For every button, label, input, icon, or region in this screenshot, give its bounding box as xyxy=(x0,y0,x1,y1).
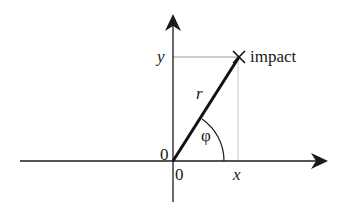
polar-diagram: y impact r φ 0 0 x xyxy=(0,0,346,202)
radius-vector xyxy=(173,57,239,161)
y-value-label: y xyxy=(155,47,165,66)
x-value-label: x xyxy=(232,165,241,184)
point-label: impact xyxy=(250,47,297,66)
radius-label: r xyxy=(196,84,203,103)
angle-label: φ xyxy=(201,126,211,145)
origin-horizontal-label: 0 xyxy=(175,165,184,184)
origin-vertical-label: 0 xyxy=(160,145,169,164)
